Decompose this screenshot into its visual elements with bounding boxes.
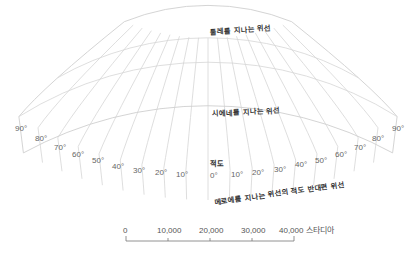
thule-parallel-line — [124, 5, 291, 21]
scale-bar: 0 10,000 20,000 30,000 40,000 스타디아 — [123, 225, 335, 241]
meridian-line — [38, 25, 133, 163]
scale-tick-10000: 10,000 — [157, 226, 182, 235]
thule-parallel-label: 툴레를 지나는 위선 — [210, 23, 271, 36]
scale-tick-30000: 30,000 — [241, 226, 266, 235]
longitude-label-0: 0° — [210, 171, 218, 180]
longitude-label-e80: 80° — [372, 134, 384, 143]
longitude-label-w50: 50° — [92, 156, 104, 165]
meridian-line — [58, 28, 142, 171]
longitude-label-w40: 40° — [112, 162, 124, 171]
map-projection-diagram: 툴레를 지나는 위선 시에네를 지나는 위선 적도 메로에를 지나는 위선의 적… — [0, 0, 416, 260]
longitude-label-w30: 30° — [133, 166, 145, 175]
equator-label: 적도 — [210, 159, 224, 168]
meridian-line — [283, 25, 378, 163]
longitude-label-w70: 70° — [54, 143, 66, 152]
syene-parallel-label: 시에네를 지나는 위선 — [212, 106, 280, 119]
longitude-label-e90: 90° — [392, 124, 404, 133]
longitude-label-e60: 60° — [335, 150, 347, 159]
scale-unit: 스타디아 — [306, 225, 335, 235]
meridian-lines — [19, 22, 397, 200]
longitude-label-e70: 70° — [354, 143, 366, 152]
longitude-label-e30: 30° — [274, 165, 286, 174]
longitude-label-w90: 90° — [15, 124, 27, 133]
scale-tick-20000: 20,000 — [199, 226, 224, 235]
longitude-label-w20: 20° — [155, 168, 167, 177]
meridian-line — [99, 33, 161, 185]
longitude-label-w80: 80° — [35, 134, 47, 143]
longitude-label-e50: 50° — [315, 156, 327, 165]
longitude-label-e20: 20° — [252, 168, 264, 177]
longitude-label-w60: 60° — [72, 150, 84, 159]
scale-tick-0: 0 — [123, 226, 128, 235]
longitude-label-w10: 10° — [176, 170, 188, 179]
longitude-label-e10: 10° — [231, 170, 243, 179]
anti-meroe-parallel-label: 메로에를 지나는 위선의 적도 반대편 위선 — [214, 180, 345, 207]
scale-tick-40000: 40,000 — [279, 226, 304, 235]
longitude-label-e40: 40° — [295, 160, 307, 169]
